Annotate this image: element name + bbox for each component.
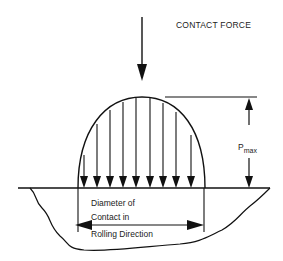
pressure-arrow (146, 98, 154, 188)
pressure-arrow (106, 110, 114, 188)
contact-force-label: CONTACT FORCE (176, 20, 251, 30)
pressure-arrow (132, 98, 140, 188)
pmax-dimension-arrows (245, 98, 253, 188)
contact-pressure-diagram: CONTACT FORCE Pmax Diameter of Contact i… (0, 0, 283, 261)
pressure-arrow (93, 124, 101, 188)
pressure-arrow (80, 155, 88, 188)
pressure-arrows (80, 98, 195, 188)
pressure-arrow (159, 103, 167, 188)
dimension-label-line1: Diameter of (91, 198, 136, 208)
pmax-label: Pmax (238, 142, 257, 154)
contact-diameter-dimension (75, 188, 204, 232)
pressure-arrow (119, 102, 127, 188)
contact-force-arrow (137, 17, 147, 81)
pressure-arrow (187, 135, 195, 188)
dimension-label-line2: Contact in (91, 212, 130, 222)
dimension-label-line3: Rolling Direction (91, 229, 153, 239)
pressure-arrow (172, 112, 180, 188)
body-outline (30, 188, 270, 250)
